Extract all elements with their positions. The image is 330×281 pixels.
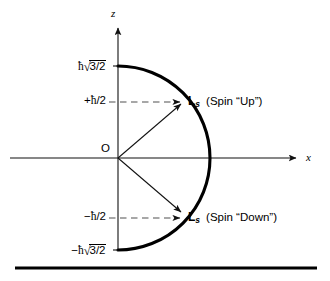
tick-label-minus-half: −ħ/2 [36,211,106,223]
tick-label-plus-half: +ħ/2 [36,95,106,107]
radicand: 3/2 [89,244,106,257]
vector-annotation: (Spin “Up”) [206,95,262,107]
radical-group: √3/2 [84,244,106,258]
x-axis-label: x [306,152,311,163]
vector-subscript: s [195,99,200,109]
tick-denominator: /2 [96,210,106,222]
vector-subscript: s [195,215,200,225]
spin-down-vector-arrow [118,158,181,212]
tick-label-lower-bound: −ħ√3/2 [30,244,106,258]
tick-sign: − [71,244,78,256]
spin-up-vector-arrow [118,104,181,158]
tick-sign: − [84,210,91,222]
tick-sign: + [84,94,91,106]
tick-denominator: /2 [96,94,106,106]
spin-down-vector-label: Ls(Spin “Down”) [188,211,277,225]
diagram-canvas [0,0,330,281]
z-axis-label: z [111,8,115,19]
vector-annotation: (Spin “Down”) [206,211,277,223]
origin-label: O [101,143,110,155]
spin-up-vector-label: Ls(Spin “Up”) [188,95,262,109]
tick-label-upper-bound: ħ√3/2 [36,60,106,74]
radical-group: √3/2 [84,60,106,74]
radicand: 3/2 [89,60,106,73]
spin-angular-momentum-figure: z x O ħ√3/2 +ħ/2 −ħ/2 −ħ√3/2 Ls(Spin “Up… [0,0,330,281]
